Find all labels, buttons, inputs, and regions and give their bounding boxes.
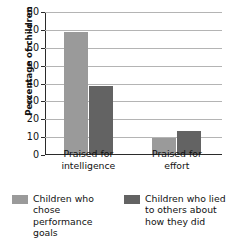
y-axis-tick-label: 30 bbox=[27, 97, 39, 107]
legend-item: Children who lied to others about how th… bbox=[124, 193, 230, 227]
x-axis-category-line: Praised for bbox=[43, 148, 133, 160]
legend-swatch-icon bbox=[12, 195, 28, 204]
y-axis-tick-label: 60 bbox=[27, 43, 39, 53]
y-axis-tick bbox=[41, 84, 45, 85]
bar-chart-figure: Percentage of children 01020304050607080… bbox=[0, 0, 230, 238]
gridline bbox=[45, 12, 222, 13]
y-axis-tick bbox=[41, 101, 45, 102]
y-axis-tick-label: 70 bbox=[27, 25, 39, 35]
legend-item: Children who chose performance goals bbox=[12, 193, 120, 238]
y-axis-tick-label: 50 bbox=[27, 61, 39, 71]
y-axis-tick bbox=[41, 66, 45, 67]
y-axis-tick-label: 80 bbox=[27, 7, 39, 17]
y-axis-tick-label: 0 bbox=[33, 150, 39, 160]
x-axis-category-label: Praised foreffort bbox=[132, 148, 222, 171]
y-axis-tick bbox=[41, 119, 45, 120]
legend-label: Children who chose performance goals bbox=[33, 193, 120, 238]
y-axis-tick bbox=[41, 48, 45, 49]
y-axis-tick-label: 10 bbox=[27, 132, 39, 142]
bar bbox=[64, 32, 88, 154]
legend-swatch-icon bbox=[124, 195, 140, 204]
chart-legend: Children who chose performance goals Chi… bbox=[6, 193, 230, 238]
bar bbox=[89, 86, 113, 154]
plot-area: 01020304050607080 bbox=[45, 12, 222, 155]
x-axis-category-label: Praised forintelligence bbox=[43, 148, 133, 171]
x-axis-category-line: intelligence bbox=[43, 160, 133, 172]
y-axis-tick bbox=[41, 30, 45, 31]
gridline bbox=[45, 30, 222, 31]
legend-label: Children who lied to others about how th… bbox=[145, 193, 226, 227]
y-axis-tick bbox=[41, 137, 45, 138]
y-axis-tick-label: 20 bbox=[27, 114, 39, 124]
x-axis-category-line: Praised for bbox=[132, 148, 222, 160]
y-axis-tick bbox=[41, 12, 45, 13]
y-axis-tick-label: 40 bbox=[27, 79, 39, 89]
x-axis-category-line: effort bbox=[132, 160, 222, 172]
